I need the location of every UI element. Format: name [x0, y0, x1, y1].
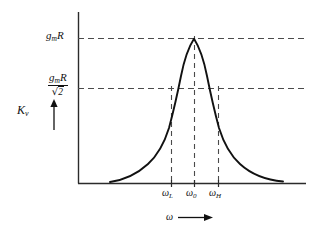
y-axis-label-k: K — [17, 103, 25, 117]
omega-0-symbol: ω — [186, 187, 193, 198]
half-power-radicand: 2 — [58, 86, 64, 97]
omega-h-subscript: H — [216, 192, 221, 200]
y-tick-label-half-power: gmR √2 — [48, 72, 68, 98]
x-tick-label-omega-h: ωH — [209, 188, 221, 200]
x-tick-label-omega-l: ωL — [162, 188, 173, 200]
response-curve — [110, 39, 283, 182]
x-axis-label: ω — [166, 212, 173, 222]
omega-l-subscript: L — [169, 192, 173, 200]
x-axis-label-omega: ω — [166, 211, 173, 222]
omega-0-subscript: 0 — [193, 192, 197, 200]
frequency-response-figure: gmR gmR √2 Kv ωL ω0 ωH ω — [0, 0, 322, 233]
x-tick-label-omega-0: ω0 — [186, 188, 197, 200]
omega-h-symbol: ω — [209, 187, 216, 198]
y-tick-label-gmr: gmR — [46, 30, 64, 42]
y-axis-label: Kv — [17, 104, 29, 118]
omega-l-symbol: ω — [162, 187, 169, 198]
half-power-denominator: √2 — [48, 86, 68, 98]
half-power-numerator: gmR — [48, 72, 68, 86]
y-tick-gmr-r: R — [57, 29, 64, 41]
half-power-r: R — [60, 71, 67, 83]
y-axis-label-subscript: v — [25, 109, 29, 118]
